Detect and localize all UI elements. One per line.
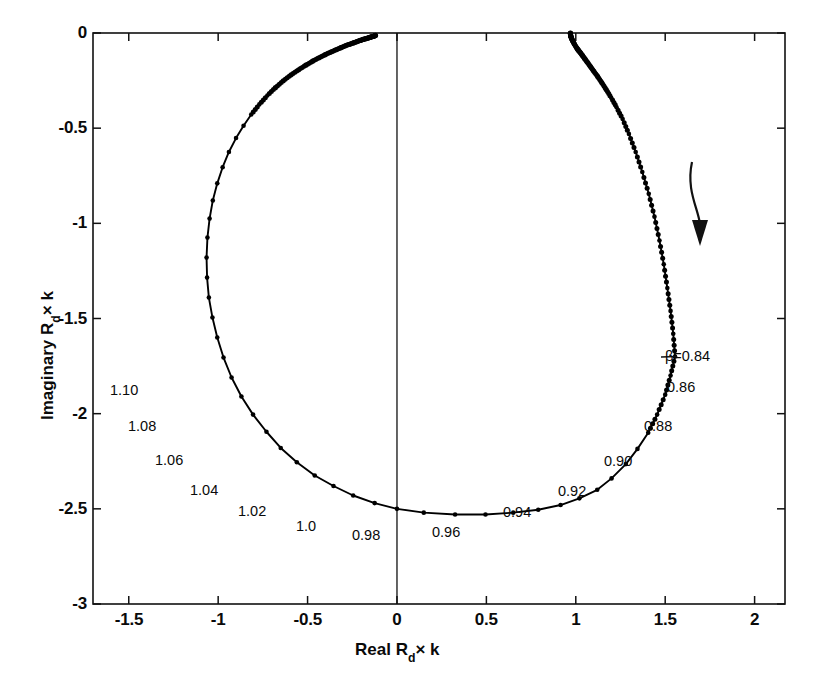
x-tick-label: 1.5 [651,610,679,630]
axis-ticks [93,33,785,604]
beta-label-beta-108: 1.08 [128,418,156,434]
x-tick-label: 0.5 [472,610,500,630]
beta-label-beta-110: 1.10 [110,382,138,398]
beta-label-beta-092: 0.92 [558,483,586,499]
y-axis-title: Imaginary Rd× k [38,291,60,420]
data-curve [207,33,675,514]
beta-label-beta-106: 1.06 [155,452,183,468]
beta-label-beta-098: 0.98 [352,527,380,543]
x-tick-label: -1.5 [115,610,143,630]
x-tick-label: 1 [562,610,590,630]
beta-label-beta-090: 0.90 [604,453,632,469]
y-tick-label: 0 [45,23,87,43]
y-tick-label: -1 [45,213,87,233]
beta-label-beta-100: 1.0 [296,518,316,534]
axes-frame [93,33,785,604]
data-markers [204,31,677,517]
beta-label-beta-102: 1.02 [238,503,266,519]
beta-label-beta-084: β=0.84 [665,348,710,364]
x-tick-label: -0.5 [294,610,322,630]
beta-label-beta-094: 0.94 [503,504,531,520]
y-tick-label: -0.5 [45,118,87,138]
x-axis-title: Real Rd× k [355,640,440,662]
beta-label-beta-096: 0.96 [432,524,460,540]
beta-label-beta-086: 0.86 [667,379,695,395]
y-tick-label: -2.5 [45,499,87,519]
plot-canvas [0,0,823,682]
y-tick-label: -3 [45,594,87,614]
x-tick-label: -1 [204,610,232,630]
beta-label-beta-088: 0.88 [644,418,672,434]
figure-root: -1.5-1-0.500.511.52 0-0.5-1-1.5-2-2.5-3 … [0,0,823,682]
x-tick-label: 2 [741,610,769,630]
direction-arrow-icon [690,162,708,246]
x-tick-label: 0 [383,610,411,630]
beta-label-beta-104: 1.04 [190,482,218,498]
